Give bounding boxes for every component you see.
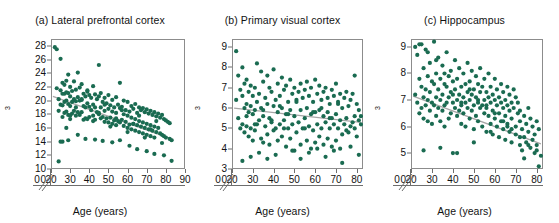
panel-c-plot-area: 567892030405060708000	[411, 39, 543, 169]
y-axis-tick-mark	[407, 100, 411, 101]
data-point	[421, 148, 425, 152]
data-point	[447, 116, 451, 120]
data-point	[533, 132, 537, 136]
data-point	[440, 109, 444, 113]
data-point	[434, 95, 438, 99]
data-point	[269, 118, 273, 122]
data-point	[68, 85, 72, 89]
data-point	[125, 130, 129, 134]
data-point	[301, 96, 305, 100]
data-point	[257, 151, 261, 155]
data-point	[103, 103, 107, 107]
data-point	[238, 126, 242, 130]
data-point	[518, 109, 522, 113]
data-point	[265, 157, 269, 161]
data-point	[103, 96, 107, 100]
data-point	[432, 103, 436, 107]
x-axis-tick-mark	[516, 169, 517, 173]
data-point	[336, 126, 340, 130]
data-point	[493, 77, 497, 81]
data-point	[434, 58, 438, 62]
data-point	[432, 82, 436, 86]
data-point	[472, 87, 476, 91]
data-point	[311, 110, 315, 114]
data-point	[342, 122, 346, 126]
data-point	[263, 124, 267, 128]
y-axis-tick-mark	[47, 86, 51, 87]
data-point	[286, 126, 290, 130]
data-point	[424, 103, 428, 107]
data-point	[259, 69, 263, 73]
data-point	[451, 151, 455, 155]
y-axis-tick-mark	[228, 128, 232, 129]
x-axis-tick-mark	[537, 169, 538, 173]
panel-b-title: (b) Primary visual cortex	[190, 14, 375, 26]
data-point	[468, 98, 472, 102]
data-point	[432, 40, 436, 44]
data-point	[148, 127, 152, 131]
x-axis-tick-mark	[336, 169, 337, 173]
data-point	[509, 116, 513, 120]
data-point	[269, 90, 273, 94]
data-point	[426, 50, 430, 54]
data-point	[122, 124, 126, 128]
data-point	[489, 101, 493, 105]
data-point	[491, 93, 495, 97]
data-point	[495, 103, 499, 107]
data-point	[162, 153, 166, 157]
data-point	[461, 95, 465, 99]
data-point	[120, 118, 124, 122]
data-point	[413, 45, 417, 49]
x-axis-tick-mark	[474, 169, 475, 173]
data-point	[518, 143, 522, 147]
x-axis-tick-mark	[70, 169, 71, 173]
data-point	[305, 138, 309, 142]
data-point	[319, 106, 323, 110]
data-point	[152, 124, 156, 128]
data-point	[326, 136, 330, 140]
data-point	[129, 127, 133, 131]
data-point	[465, 106, 469, 110]
data-point	[309, 147, 313, 151]
data-point	[359, 122, 363, 126]
data-point	[526, 130, 530, 134]
panel-a-x-axis-label: Age (years)	[0, 205, 200, 217]
data-point	[143, 126, 147, 130]
data-point	[261, 80, 265, 84]
data-point	[154, 130, 158, 134]
data-point	[445, 101, 449, 105]
data-point	[421, 95, 425, 99]
data-point	[93, 105, 97, 109]
data-point	[470, 69, 474, 73]
data-point	[344, 116, 348, 120]
data-point	[236, 73, 240, 77]
y-axis-tick-mark	[407, 126, 411, 127]
data-point	[253, 122, 257, 126]
data-point	[103, 109, 107, 113]
data-point	[118, 138, 122, 142]
y-axis-tick-mark	[407, 153, 411, 154]
x-axis-break-icon	[37, 179, 51, 192]
data-point	[148, 123, 152, 127]
data-point	[344, 128, 348, 132]
data-point	[501, 90, 505, 94]
data-point	[141, 120, 145, 124]
data-point	[457, 66, 461, 70]
x-axis-break-icon	[218, 179, 232, 192]
x-axis-tick-mark	[495, 169, 496, 173]
data-point	[261, 108, 265, 112]
data-point	[321, 143, 325, 147]
data-point	[489, 122, 493, 126]
data-point	[436, 106, 440, 110]
data-point	[451, 101, 455, 105]
data-point	[114, 123, 118, 127]
data-point	[57, 159, 61, 163]
data-point	[421, 66, 425, 70]
data-point	[276, 82, 280, 86]
x-axis-break-icon	[397, 179, 411, 192]
data-point	[242, 82, 246, 86]
data-point	[315, 147, 319, 151]
data-point	[507, 109, 511, 113]
data-point	[428, 61, 432, 65]
data-point	[290, 122, 294, 126]
